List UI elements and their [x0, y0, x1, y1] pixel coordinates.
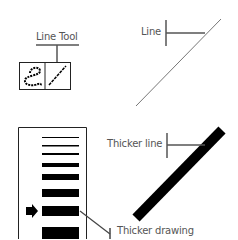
thickness-option	[42, 227, 79, 239]
thickness-option-selected	[42, 206, 79, 216]
line-tool-label: Line Tool	[36, 31, 78, 42]
thicker-drawing-label: Thicker drawing	[117, 225, 194, 236]
thickness-option	[42, 153, 79, 155]
selection-arrow-icon	[26, 204, 38, 218]
thickness-panel	[19, 128, 87, 240]
thickness-option	[42, 163, 79, 167]
line-tool-callout	[36, 45, 79, 64]
thicker-line-label: Thicker line	[107, 138, 162, 149]
thickness-option	[42, 189, 79, 197]
thickness-option	[42, 137, 79, 138]
line-label: Line	[141, 26, 161, 37]
toolbox	[20, 62, 71, 90]
thicker-drawing-callout	[80, 211, 110, 239]
thickness-option	[42, 174, 79, 180]
thickness-options[interactable]	[42, 137, 79, 239]
thickness-option	[42, 145, 79, 147]
